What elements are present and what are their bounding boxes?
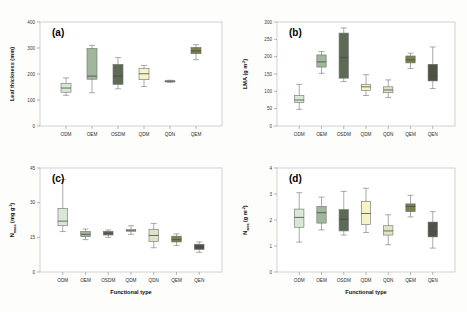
svg-text:200: 200	[264, 54, 272, 59]
category-label-QEM: QEM	[405, 132, 416, 137]
category-label-OEM: OEM	[80, 278, 91, 283]
svg-text:300: 300	[27, 46, 35, 51]
svg-text:3: 3	[269, 192, 272, 197]
category-label-QEN: QEN	[428, 278, 438, 283]
panel-d: 01234ODMOEMOSDMQDMQDNQEMQEN(d)Functional…	[233, 156, 467, 312]
panel-b: 050100150200250300ODMOEMOSDMQDMQDNQEMQEN…	[233, 4, 467, 152]
svg-text:0: 0	[32, 124, 35, 129]
category-label-QEM: QEM	[405, 278, 416, 283]
category-label-ODM: ODM	[61, 132, 72, 137]
x-axis-title: Functional type	[110, 289, 151, 295]
category-label-OSDM: OSDM	[101, 278, 115, 283]
svg-text:2: 2	[269, 218, 272, 223]
category-label-QDM: QDM	[139, 132, 150, 137]
category-label-QEN: QEN	[428, 132, 438, 137]
svg-text:45: 45	[30, 166, 36, 171]
svg-text:150: 150	[264, 72, 272, 77]
category-label-OSDM: OSDM	[111, 132, 125, 137]
svg-text:100: 100	[27, 98, 35, 103]
category-label-QDM: QDM	[126, 278, 137, 283]
category-label-OEM: OEM	[87, 132, 98, 137]
y-axis-title: Leaf thickness (mm)	[9, 47, 15, 101]
y-axis-title: Nmass (mg g-1)	[9, 203, 17, 238]
panel-tag-a: (a)	[52, 27, 64, 38]
category-label-OSDM: OSDM	[337, 132, 351, 137]
category-label-QEN: QEN	[194, 278, 204, 283]
category-label-ODM: ODM	[57, 278, 68, 283]
category-label-OEM: OEM	[316, 278, 327, 283]
panel-d-plot: 01234ODMOEMOSDMQDMQDNQEMQEN(d)Functional…	[233, 156, 467, 312]
svg-text:4: 4	[269, 166, 272, 171]
svg-text:0: 0	[269, 124, 272, 129]
figure-canvas: 0100200300400ODMOEMOSDMQDMQDNQEM(a)Leaf …	[0, 0, 467, 312]
category-label-QEM: QEM	[171, 278, 182, 283]
x-axis-title: Functional type	[345, 289, 386, 295]
panel-a-plot: 0100200300400ODMOEMOSDMQDMQDNQEM(a)Leaf …	[0, 4, 234, 152]
panel-c: 0153045ODMOEMOSDMQDMQDNQEMQEN(c)Function…	[0, 156, 234, 312]
category-label-QDN: QDN	[165, 132, 175, 137]
svg-text:0: 0	[32, 270, 35, 275]
svg-text:300: 300	[264, 20, 272, 25]
category-label-ODM: ODM	[294, 132, 305, 137]
category-label-QDM: QDM	[361, 132, 372, 137]
category-label-ODM: ODM	[294, 278, 305, 283]
panel-tag-b: (b)	[289, 27, 302, 38]
svg-text:1: 1	[269, 244, 272, 249]
category-label-OSDM: OSDM	[337, 278, 351, 283]
svg-text:400: 400	[27, 20, 35, 25]
category-label-QDN: QDN	[383, 278, 393, 283]
panel-a: 0100200300400ODMOEMOSDMQDMQDNQEM(a)Leaf …	[0, 4, 234, 152]
category-label-QDN: QDN	[383, 132, 393, 137]
category-label-OEM: OEM	[316, 132, 327, 137]
svg-text:15: 15	[30, 235, 36, 240]
svg-text:200: 200	[27, 72, 35, 77]
svg-text:0: 0	[269, 270, 272, 275]
svg-text:250: 250	[264, 37, 272, 42]
panel-b-plot: 050100150200250300ODMOEMOSDMQDMQDNQEMQEN…	[233, 4, 467, 152]
svg-text:30: 30	[30, 200, 36, 205]
panel-tag-d: (d)	[289, 173, 302, 184]
y-axis-title: Narea (g m-2)	[242, 205, 250, 234]
y-axis-title: LMA (g m-2)	[242, 59, 248, 89]
category-label-QEM: QEM	[191, 132, 202, 137]
panel-tag-c: (c)	[52, 173, 64, 184]
svg-text:100: 100	[264, 89, 272, 94]
svg-text:50: 50	[267, 106, 273, 111]
category-label-QDM: QDM	[361, 278, 372, 283]
panel-c-plot: 0153045ODMOEMOSDMQDMQDNQEMQEN(c)Function…	[0, 156, 234, 312]
category-label-QDN: QDN	[149, 278, 159, 283]
